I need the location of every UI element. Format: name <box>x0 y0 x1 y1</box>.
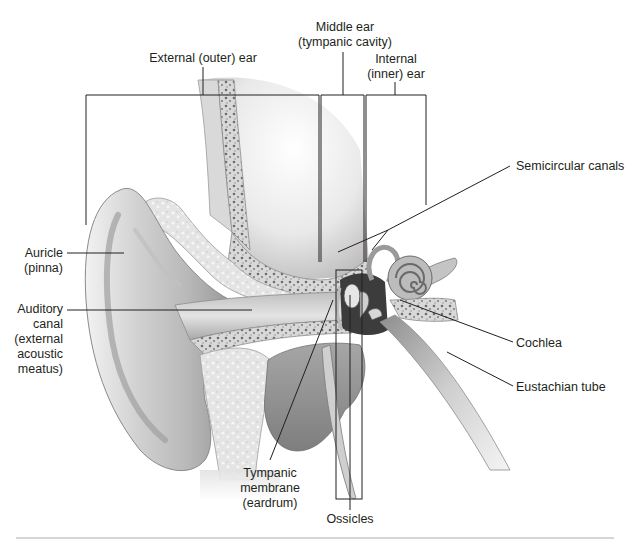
label-middle-ear: Middle ear (tympanic cavity) <box>290 20 400 50</box>
label-line: Semicircular canals <box>516 159 624 174</box>
label-line: Cochlea <box>516 336 562 351</box>
label-line: (inner) ear <box>366 67 426 82</box>
semicircular-canals-leader <box>388 166 510 230</box>
label-cochlea: Cochlea <box>516 336 562 351</box>
label-auditory-canal: Auditory canal (external acoustic meatus… <box>5 302 63 377</box>
malleus <box>344 284 360 308</box>
label-eustachian-tube: Eustachian tube <box>516 380 606 395</box>
label-line: (eardrum) <box>232 496 308 511</box>
label-line: Middle ear <box>290 20 400 35</box>
label-line: Tympanic <box>232 466 308 481</box>
label-line: Eustachian tube <box>516 380 606 395</box>
label-external-ear: External (outer) ear <box>143 51 263 66</box>
label-internal-ear: Internal (inner) ear <box>366 52 426 82</box>
label-line: External (outer) ear <box>143 51 263 66</box>
mastoid-process <box>200 348 270 480</box>
label-auricle: Auricle (pinna) <box>10 246 63 276</box>
label-semicircular-canals: Semicircular canals <box>516 159 624 174</box>
label-line: Auricle <box>10 246 63 261</box>
label-line: acoustic <box>5 347 63 362</box>
label-line: membrane <box>232 481 308 496</box>
label-line: Auditory <box>5 302 63 317</box>
label-line: (pinna) <box>10 261 63 276</box>
label-line: Internal <box>366 52 426 67</box>
eustachian-tube-shape <box>380 315 510 470</box>
label-line: (external <box>5 332 63 347</box>
label-ossicles: Ossicles <box>315 512 385 527</box>
label-tympanic-membrane: Tympanic membrane (eardrum) <box>232 466 308 511</box>
label-line: (tympanic cavity) <box>290 35 400 50</box>
label-line: canal <box>5 317 63 332</box>
label-line: meatus) <box>5 362 63 377</box>
label-line: Ossicles <box>315 512 385 527</box>
eustachian-tube-leader <box>447 352 513 386</box>
ear-anatomy-diagram: External (outer) ear Middle ear (tympani… <box>0 0 631 543</box>
ear-illustration <box>0 0 631 543</box>
cochlea-shape <box>388 256 432 300</box>
